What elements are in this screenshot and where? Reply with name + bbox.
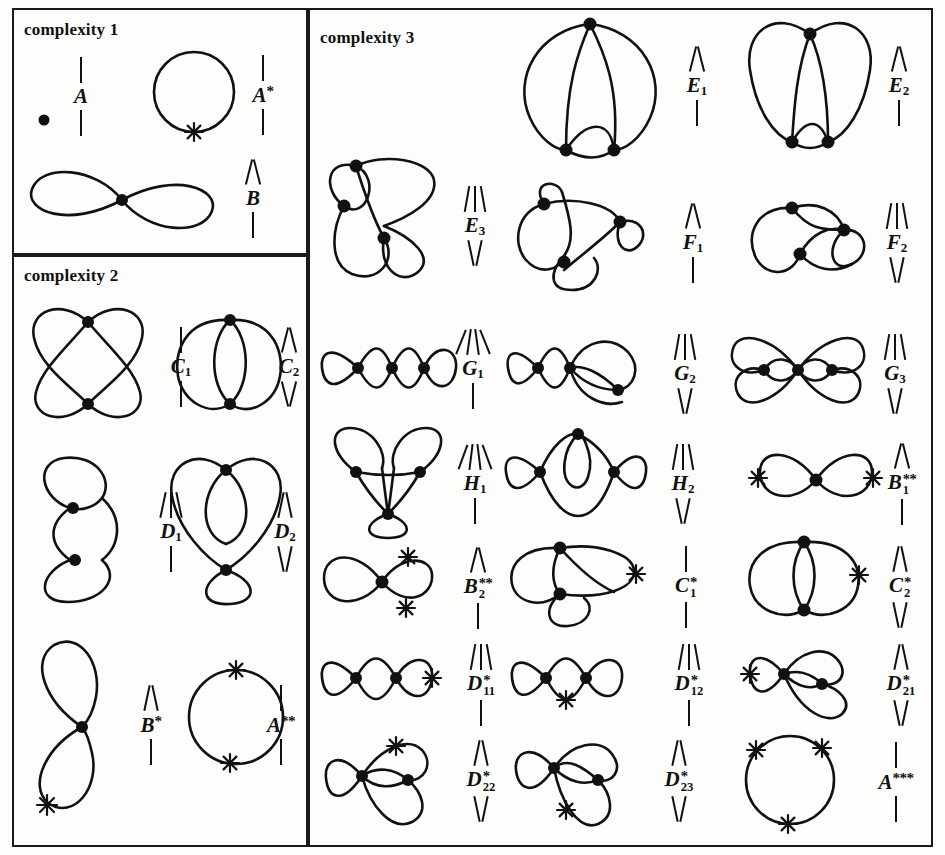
ticks-below-C2: [281, 381, 297, 407]
vertex-dot: [564, 362, 576, 374]
ticks-below-D2: [277, 546, 293, 572]
ticks-above-D21-star: [893, 644, 909, 670]
vertex-dot: [758, 364, 770, 376]
vertex-dot: [224, 314, 236, 326]
ticks-below-C1-star: [682, 602, 690, 628]
specimen-C1: [22, 300, 162, 435]
ticks-above-G3: [883, 334, 907, 360]
vertex-dot: [350, 466, 362, 478]
left-outer: [518, 204, 564, 270]
ticks-below-E1: [693, 100, 701, 126]
outer-arc-bottom: [566, 150, 614, 158]
left-big-lobe: [752, 208, 800, 272]
left-lobe: [760, 455, 816, 496]
bottom-sweep: [540, 472, 614, 516]
ticks-above-B1-2star: [894, 443, 910, 469]
inner-upper: [554, 763, 598, 780]
curve-diagram-C2-star: [742, 530, 877, 630]
vertex-dot: [572, 428, 584, 440]
right-lobe: [816, 455, 872, 496]
curve-diagram-G2: [506, 324, 646, 416]
vertex-dot: [350, 672, 362, 684]
vertex-dot: [798, 536, 811, 549]
label-text-B2-2star: B**2: [464, 573, 493, 602]
inner-a: [792, 208, 844, 230]
ticks-below-G1: [469, 383, 477, 409]
ticks-below-F1: [689, 257, 697, 283]
label-text-D22-star: D*22: [467, 766, 496, 795]
star-mark: [747, 741, 765, 759]
label-text-G2: G2: [674, 360, 696, 388]
label-text-D12-star: D*12: [675, 670, 704, 699]
ticks-below-H2: [675, 498, 691, 524]
label-text-D21-star: D*21: [887, 670, 916, 699]
vertex-dot: [390, 672, 402, 684]
label-E2: E2: [868, 22, 930, 150]
panel-title-complexity-1: complexity 1: [24, 20, 118, 40]
label-F2: F2: [866, 182, 928, 304]
diag-strand-b: [590, 24, 615, 150]
specimen-F1: [508, 178, 658, 298]
label-B-star: B*: [120, 660, 182, 790]
vertex-dot: [534, 466, 546, 478]
curve-diagram-D21-star: [738, 632, 878, 727]
curve-diagram-G1: [320, 324, 460, 414]
vertex-dot: [804, 28, 817, 41]
ticks-above-C2: [281, 327, 297, 353]
ticks-above-F1: [685, 203, 701, 229]
specimen-E3: [318, 148, 463, 288]
vertex-dot: [67, 502, 79, 514]
specimen-F2: [740, 182, 875, 297]
vertex-dot: [554, 542, 567, 555]
vertex-dot: [224, 398, 236, 410]
vertex-dot: [838, 224, 851, 237]
bottom-loop: [45, 560, 110, 602]
label-text-D11-star: D*11: [467, 670, 495, 699]
center-loop: [564, 434, 590, 487]
vertex-dot: [592, 774, 604, 786]
label-G1: G1: [442, 314, 504, 424]
inner-lower: [362, 776, 408, 786]
ticks-above-D23-star: [671, 740, 687, 766]
specimen-C1-star: [504, 532, 654, 632]
vertex-dot: [352, 362, 364, 374]
right-big-circle: [804, 542, 859, 615]
vertex-dot: [532, 362, 544, 374]
outer-right: [810, 23, 871, 142]
outer-arc-left: [524, 24, 590, 150]
ticks-below-C2-star: [892, 602, 908, 628]
vertex-dot: [82, 316, 94, 328]
inner-upper: [362, 770, 408, 780]
vertex-dot: [82, 398, 94, 410]
label-text-B: B: [246, 185, 260, 212]
ticks-above-C1-star: [682, 546, 690, 572]
curve-diagram-G3: [726, 320, 871, 420]
ticks-below-D21-star: [893, 700, 909, 726]
vertex-dot: [548, 762, 560, 774]
label-B1-2star: B**1: [866, 424, 938, 544]
label-text-A-2star: A**: [267, 711, 295, 739]
star-mark: [423, 669, 441, 687]
ticks-above-H2: [671, 444, 695, 470]
inner-b: [800, 229, 844, 254]
vertex-dot: [826, 364, 838, 376]
vertex-dot: [792, 364, 804, 376]
vertex-dot: [560, 144, 573, 157]
curve-diagram-E1: [508, 12, 673, 167]
vertex-dot: [816, 678, 828, 690]
ticks-below-A-star: [259, 109, 267, 135]
vertex-dot: [338, 200, 351, 213]
label-text-A-star: A*: [252, 81, 273, 109]
vertex-dot: [538, 198, 551, 211]
specimen-E2: [740, 14, 880, 164]
ticks-below-F2: [889, 257, 905, 283]
vertex-dot: [584, 18, 597, 31]
vertex-dot: [540, 672, 552, 684]
label-text-B1-2star: B**1: [888, 469, 917, 498]
specimen-D12-star: [506, 638, 641, 723]
lower-lobe: [566, 127, 614, 150]
ticks-above-G1: [457, 329, 489, 355]
label-text-F2: F2: [887, 229, 908, 257]
specimen-G3: [726, 320, 871, 420]
ticks-above-E3: [463, 186, 487, 212]
